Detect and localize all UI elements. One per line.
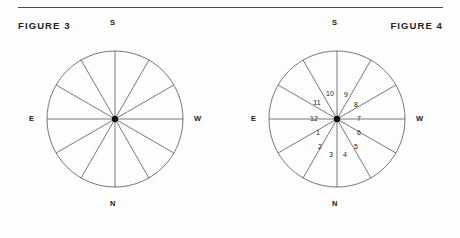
figure-3-compass-south: S (110, 18, 115, 27)
figure-4-sector-number-6: 6 (357, 129, 361, 136)
figure-4-sector-number-2: 2 (318, 143, 322, 150)
spoke-210 (56, 119, 115, 153)
spoke-330 (115, 119, 174, 153)
figure-4-diagram (240, 26, 440, 226)
figure-4-compass-east: E (251, 114, 256, 123)
figure-4-center-dot (334, 116, 340, 122)
header-rule (18, 7, 443, 8)
figure-4-sector-number-9: 9 (344, 91, 348, 98)
page-canvas: FIGURE 3 S N E W (0, 0, 460, 238)
figure-4-sector-number-8: 8 (354, 101, 358, 108)
spoke-120 (81, 60, 115, 119)
figure-4-sector-number-3: 3 (329, 151, 333, 158)
figure-4-sector-number-11: 11 (313, 99, 320, 106)
spoke-150 (56, 85, 115, 119)
spoke-30 (115, 85, 174, 119)
figure-3-compass-east: E (29, 114, 34, 123)
figure-4-compass-west: W (416, 114, 423, 123)
figure-3-compass-west: W (194, 114, 201, 123)
figure-3-diagram (22, 26, 212, 226)
figure-4-compass-north: N (332, 199, 337, 208)
figure-4-sector-number-12: 12 (310, 115, 318, 122)
spoke-300 (115, 119, 149, 178)
figure-4-sector-number-10: 10 (326, 90, 334, 97)
figure-3-center-dot (112, 116, 118, 122)
figure-3: S N E W (22, 26, 212, 226)
figure-4-sector-number-1: 1 (316, 129, 320, 136)
figure-4: 1 2 3 4 5 6 7 8 9 10 11 12 S N E W (240, 26, 440, 226)
figure-4-compass-south: S (332, 18, 337, 27)
figure-4-sector-number-5: 5 (354, 143, 358, 150)
spoke-60 (337, 60, 371, 119)
spoke-60 (115, 60, 149, 119)
figure-4-sector-number-4: 4 (343, 151, 347, 158)
figure-3-compass-north: N (110, 199, 115, 208)
spoke-240 (81, 119, 115, 178)
spoke-330 (337, 119, 396, 153)
figure-4-sector-number-7: 7 (357, 115, 361, 122)
spoke-210 (278, 119, 337, 153)
